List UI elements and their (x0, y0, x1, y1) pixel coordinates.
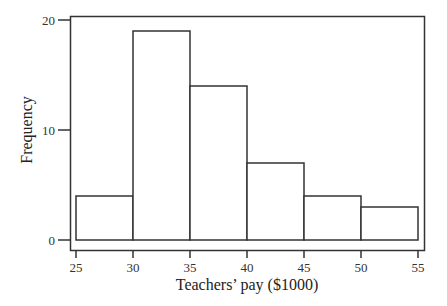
histogram-bars (76, 31, 418, 240)
y-axis-ticks: 01020 (42, 13, 70, 248)
histogram-bar (76, 196, 133, 240)
y-axis-title: Frequency (18, 96, 36, 164)
x-tick-label: 25 (70, 260, 83, 275)
x-tick-label: 50 (355, 260, 368, 275)
histogram-bar (361, 207, 418, 240)
histogram-bar (190, 86, 247, 240)
histogram-chart: 01020 25303540455055 Teachers’ pay ($100… (0, 0, 447, 306)
x-axis-title: Teachers’ pay ($1000) (176, 276, 319, 294)
y-tick-label: 10 (42, 123, 55, 138)
y-tick-label: 0 (49, 233, 56, 248)
histogram-bar (247, 163, 304, 240)
histogram-bar (304, 196, 361, 240)
x-tick-label: 35 (184, 260, 197, 275)
x-tick-label: 45 (298, 260, 311, 275)
y-tick-label: 20 (42, 13, 55, 28)
x-tick-label: 55 (412, 260, 425, 275)
x-tick-label: 40 (241, 260, 254, 275)
x-tick-label: 30 (127, 260, 140, 275)
histogram-bar (133, 31, 190, 240)
x-axis-ticks: 25303540455055 (70, 250, 425, 275)
